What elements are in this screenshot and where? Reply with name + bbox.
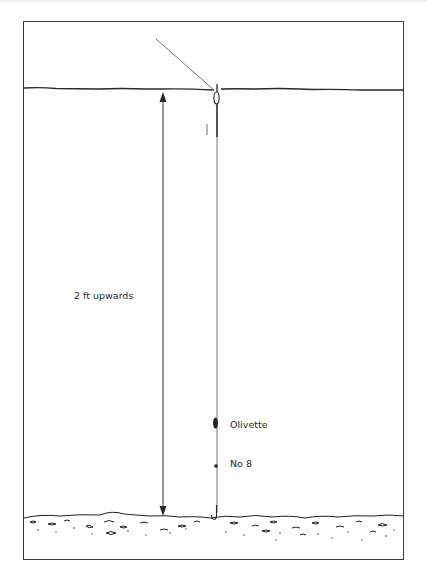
- no8-shot: [214, 464, 218, 468]
- river-bed-specks: [37, 527, 394, 541]
- rod-line: [156, 39, 214, 90]
- olivette-label: Olivette: [230, 419, 268, 430]
- shot-label: No 8: [230, 458, 252, 469]
- rig-illustration: [0, 0, 427, 579]
- river-bed: [24, 512, 404, 535]
- olivette-weight: [213, 418, 218, 429]
- depth-label: 2 ft upwards: [74, 290, 133, 301]
- float: [214, 84, 219, 137]
- depth-arrow: [160, 92, 167, 516]
